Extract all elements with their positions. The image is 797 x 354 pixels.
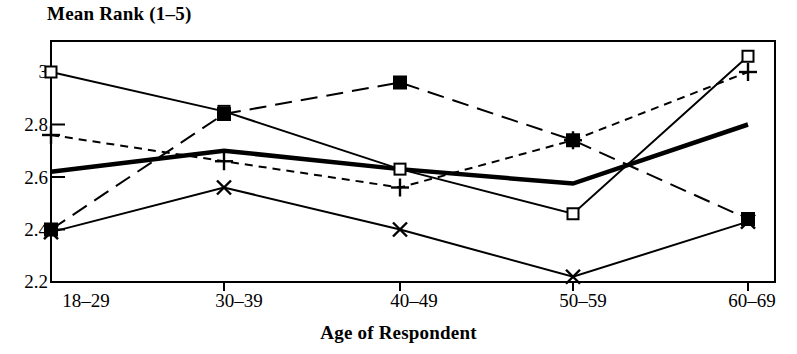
data-point-marker-filled-square [394,77,406,89]
series-cross-series [51,188,748,277]
data-point-marker-plus [739,63,757,81]
series-line-filled-square-series [51,83,748,230]
data-point-marker-open-square [46,67,57,78]
data-point-marker-open-square [395,164,406,175]
y-axis-tickmarks [52,125,65,230]
data-point-marker-cross [217,181,231,195]
data-point-marker-filled-square [218,108,230,120]
plot-frame [51,41,775,282]
series-line-cross-series [51,188,748,277]
x-axis-tickmarks [224,282,748,291]
series-layer [42,51,757,284]
data-point-marker-open-square [743,51,754,62]
data-point-marker-cross [393,223,407,237]
data-point-marker-open-square [568,208,579,219]
data-point-marker-plus [215,152,233,170]
chart-container: Mean Rank (1–5) Age of Respondent 3 2.8 … [0,0,797,354]
plot-area [0,0,797,354]
data-point-marker-plus [42,126,60,144]
series-filled-square-series [51,83,748,230]
data-point-marker-plus [391,179,409,197]
